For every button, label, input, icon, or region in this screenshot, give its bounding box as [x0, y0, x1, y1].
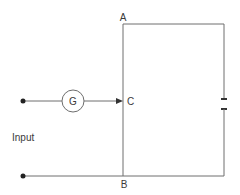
galvanometer-label: G [69, 96, 77, 107]
node-a-label: A [120, 12, 127, 23]
input-terminal-bottom [21, 174, 26, 179]
node-c-label: C [127, 96, 134, 107]
node-b-label: B [121, 179, 128, 190]
potentiometer-circuit: G A B C Input [0, 0, 240, 195]
arrow-icon [116, 98, 123, 104]
input-label: Input [12, 132, 34, 143]
input-terminal-top [21, 99, 26, 104]
